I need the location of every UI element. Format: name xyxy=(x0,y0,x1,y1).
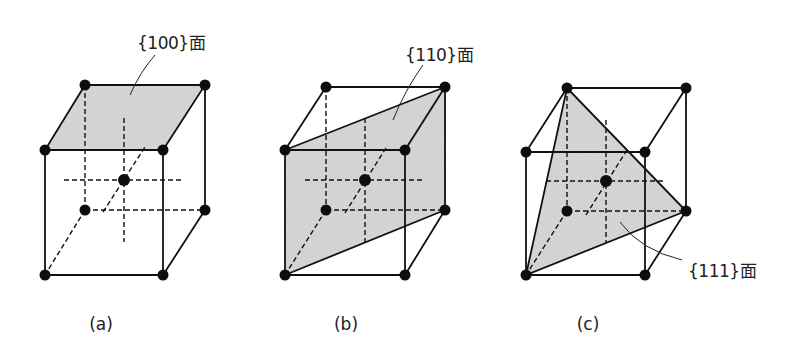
caption-c: (c) xyxy=(577,314,600,334)
caption-a: (a) xyxy=(89,314,113,334)
plane-label-c: {111}面 xyxy=(688,257,756,282)
plane-label-a: {100}面 xyxy=(137,29,205,54)
plane-100 xyxy=(45,85,205,150)
panel-c-cube xyxy=(521,83,692,281)
panel-b-cube xyxy=(280,65,451,281)
panel-a-cube xyxy=(40,55,211,281)
crystal-planes-figure: {100}面 {110}面 {111}面 (a) (b) (c) xyxy=(0,0,798,363)
caption-b: (b) xyxy=(334,314,358,334)
plane-label-b: {110}面 xyxy=(405,41,473,66)
